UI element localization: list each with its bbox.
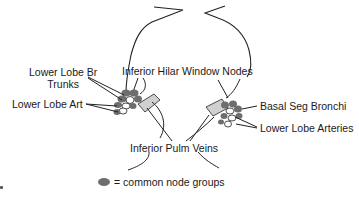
legend: = common node groups bbox=[98, 176, 225, 188]
label-inferior-hilar-window-nodes: Inferior Hilar Window Nodes bbox=[122, 65, 253, 77]
common-node-group-icon bbox=[98, 178, 110, 186]
right-pulm-vein-line-a bbox=[190, 115, 209, 141]
hilar-window-pointer-right bbox=[218, 80, 228, 98]
legend-connector-right bbox=[198, 152, 219, 168]
stray-mark bbox=[0, 186, 3, 189]
hilar-window-pointer-left2 bbox=[140, 78, 145, 94]
basal-seg-pointer bbox=[242, 106, 257, 109]
left-hilum-outline bbox=[126, 7, 183, 92]
label-basal-seg-bronchi: Basal Seg Bronchi bbox=[260, 100, 346, 112]
legend-text: = common node groups bbox=[114, 176, 225, 188]
label-lower-lobe-br-line2: Trunks bbox=[29, 78, 97, 90]
label-lower-lobe-arteries: Lower Lobe Arteries bbox=[260, 122, 353, 134]
left-vessel-band bbox=[138, 94, 160, 112]
label-lower-lobe-art: Lower Lobe Art bbox=[12, 98, 83, 110]
right-node-cluster bbox=[218, 101, 243, 128]
label-lower-lobe-br-trunks: Lower Lobe Br Trunks bbox=[29, 66, 97, 90]
left-pulm-vein-line-a bbox=[152, 102, 164, 138]
label-inferior-pulm-veins: Inferior Pulm Veins bbox=[130, 142, 218, 154]
left-pulm-vein-line-b bbox=[147, 108, 172, 141]
hilar-window-pointer-right2 bbox=[226, 79, 240, 98]
legend-connector-left bbox=[128, 152, 149, 170]
left-node-cluster bbox=[114, 90, 143, 116]
label-lower-lobe-br-line1: Lower Lobe Br bbox=[29, 66, 97, 78]
right-pulm-vein-line-b bbox=[186, 117, 214, 141]
hilar-node-diagram: Lower Lobe Br Trunks Lower Lobe Art Infe… bbox=[0, 0, 359, 200]
